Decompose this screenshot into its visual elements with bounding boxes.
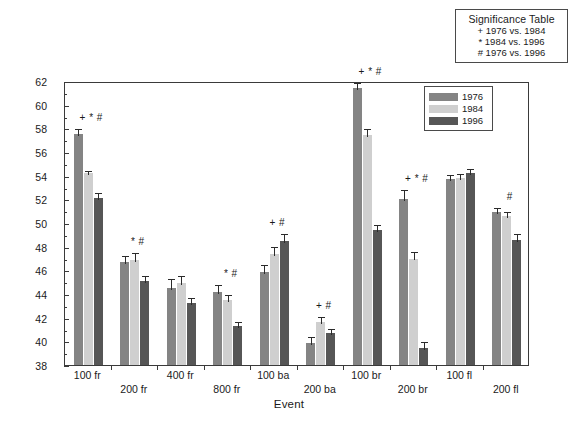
y-tick-label: 58 [7,123,47,135]
y-tick-mark [64,366,69,367]
y-tick-label: 40 [7,336,47,348]
bar-800-fr-1996 [233,326,242,365]
y-tick-mark [64,295,69,296]
error-bar-cap [447,175,454,176]
significance-table: Significance Table + 1976 vs. 1984 * 198… [455,9,568,63]
y-tick-label: 56 [7,147,47,159]
legend-swatch-1976 [429,93,458,101]
y-tick-mark-minor [64,331,67,332]
error-bar-cap [281,234,288,235]
figure-root: Significance Table + 1976 vs. 1984 * 198… [0,0,578,425]
legend-label-1996: 1996 [462,116,483,126]
y-tick-mark-minor [64,354,67,355]
x-tick-mark [250,366,251,370]
bar-200-br-1976 [399,199,408,365]
error-bar-cap [504,212,511,213]
x-tick-label-100-ba: 100 ba [257,369,289,381]
x-tick-label-200-fr: 200 fr [120,383,147,395]
error-bar-cap [271,247,278,248]
y-tick-mark-minor [64,94,67,95]
bar-200-fr-1996 [140,281,149,365]
error-bar [414,252,415,260]
y-tick-mark-minor [64,283,67,284]
y-tick-label: 50 [7,218,47,230]
significance-marker-100-br: + * # [359,66,382,77]
y-tick-label: 42 [7,313,47,325]
error-bar [135,253,136,261]
y-tick-label: 44 [7,289,47,301]
error-bar-cap [215,285,222,286]
error-bar-cap [457,174,464,175]
legend-swatch-1996 [429,117,458,125]
error-bar-cap [178,276,185,277]
significance-marker-200-fr: * # [131,236,145,247]
error-bar-cap [85,171,92,172]
error-bar-cap [494,208,501,209]
significance-marker-200-ba: + # [316,300,332,311]
x-tick-mark [390,366,391,370]
error-bar-cap [318,317,325,318]
y-tick-mark [64,82,69,83]
bar-100-ba-1984 [270,254,279,365]
bar-200-ba-1996 [326,333,335,365]
x-tick-mark [483,366,484,370]
error-bar-cap [261,265,268,266]
significance-marker-200-br: + * # [405,173,428,184]
y-tick-mark [64,129,69,130]
y-tick-label: 38 [7,360,47,372]
x-tick-label-200-ba: 200 ba [304,383,336,395]
error-bar-cap [374,225,381,226]
bar-100-br-1976 [353,88,362,365]
x-tick-mark [343,366,344,370]
y-tick-label: 46 [7,265,47,277]
bar-100-fl-1996 [466,173,475,365]
y-tick-mark [64,106,69,107]
error-bar [145,276,146,283]
legend-item-1976: 1976 [429,91,488,102]
error-bar-cap [308,337,315,338]
bar-100-ba-1976 [260,272,269,365]
y-tick-mark [64,342,69,343]
significance-marker-100-fr: + * # [80,112,103,123]
x-tick-mark [436,366,437,370]
bar-400-fr-1996 [187,303,196,365]
x-axis-label: Event [0,398,578,410]
error-bar-cap [95,193,102,194]
bar-200-br-1996 [419,348,428,365]
y-tick-mark [64,153,69,154]
error-bar [125,256,126,264]
significance-row-plus: + 1976 vs. 1984 [460,25,563,36]
y-tick-mark-minor [64,236,67,237]
error-bar-cap [225,295,232,296]
error-bar [98,193,99,200]
error-bar [404,190,405,202]
x-tick-mark [157,366,158,370]
x-tick-label-100-br: 100 br [351,369,381,381]
y-tick-label: 48 [7,242,47,254]
y-tick-mark-minor [64,189,67,190]
legend-item-1984: 1984 [429,103,488,114]
bar-200-fl-1984 [502,216,511,365]
legend-item-1996: 1996 [429,115,488,126]
x-tick-label-100-fl: 100 fl [446,369,472,381]
legend-label-1976: 1976 [462,92,483,102]
error-bar-cap [188,298,195,299]
x-tick-label-400-fr: 400 fr [167,369,194,381]
bar-100-br-1996 [373,230,382,365]
y-tick-label: 60 [7,100,47,112]
x-tick-mark [111,366,112,370]
error-bar [264,265,265,273]
bar-200-fr-1984 [130,260,139,365]
bar-800-fr-1984 [223,300,232,365]
error-bar-cap [354,83,361,84]
y-tick-mark [64,177,69,178]
error-bar-cap [467,169,474,170]
x-tick-mark [204,366,205,370]
legend-label-1984: 1984 [462,104,483,114]
error-bar-cap [401,190,408,191]
bar-100-fr-1984 [84,173,93,365]
error-bar-cap [514,234,521,235]
bar-400-fr-1984 [177,283,186,365]
significance-table-title: Significance Table [460,13,563,25]
y-tick-mark [64,271,69,272]
